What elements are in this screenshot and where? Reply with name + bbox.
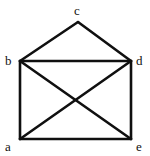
graph-figure: a b c d e: [0, 0, 150, 156]
vertex-label-d: d: [136, 54, 143, 67]
vertex-label-a: a: [5, 140, 11, 153]
edge-b-c: [20, 22, 78, 61]
vertex-label-c: c: [74, 4, 80, 17]
vertex-label-b: b: [5, 54, 12, 67]
edge-group: [20, 22, 131, 139]
vertex-label-e: e: [136, 140, 142, 153]
graph-edges-canvas: [0, 0, 150, 156]
edge-c-d: [78, 22, 131, 61]
